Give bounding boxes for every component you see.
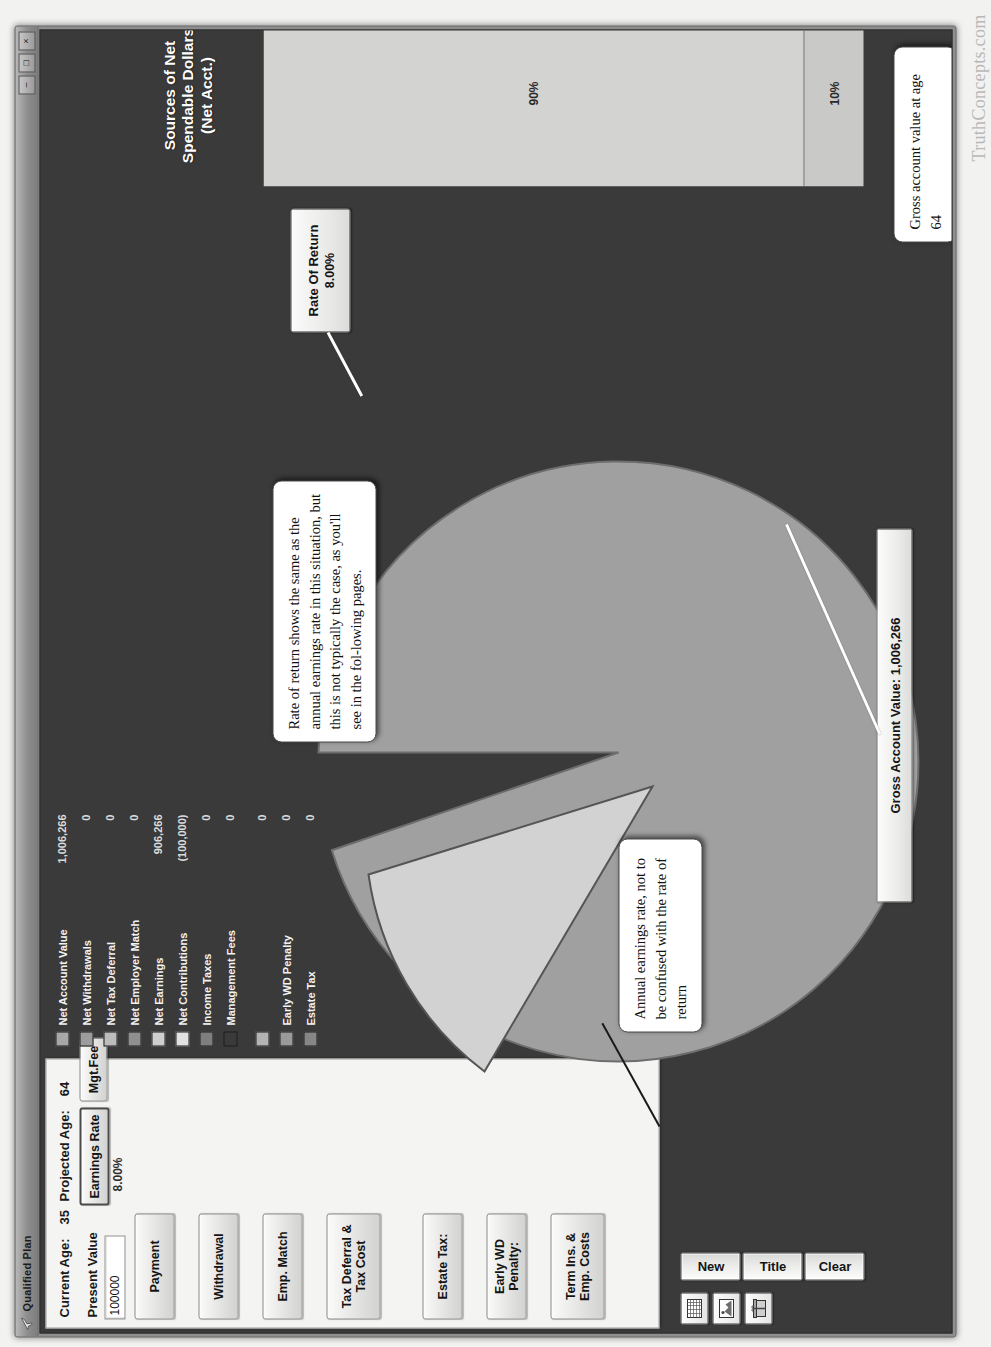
bar-chart-title-line-3: (Net Acct.)	[197, 29, 215, 190]
gross-account-value-text: Gross Account Value: 1,006,266	[887, 617, 902, 813]
legend-swatch	[199, 1031, 213, 1046]
withdrawal-button[interactable]: Withdrawal	[198, 1213, 238, 1319]
legend-label: Net Withdrawals	[80, 940, 92, 1025]
emp-match-button[interactable]: Emp. Match	[262, 1213, 302, 1319]
gross-account-value-box: Gross Account Value: 1,006,266	[876, 528, 912, 902]
legend-swatch	[151, 1031, 165, 1046]
legend-label: Management Fees	[224, 930, 236, 1025]
window-controls: – □ ×	[18, 26, 35, 94]
legend-value: 0	[127, 814, 139, 894]
window-titlebar: Qualified Plan – □ ×	[15, 26, 38, 1336]
window-client-area: Current Age: 35 Projected Age: 64 Presen…	[39, 29, 952, 1333]
table-grid-icon[interactable]	[680, 1292, 708, 1324]
legend-value: 0	[255, 814, 267, 894]
earnings-rate-value: 8.00%	[110, 1157, 124, 1191]
early-wd-penalty-button[interactable]: Early WD Penalty:	[486, 1213, 526, 1319]
rate-of-return-callout: Rate of return shows the same as the ann…	[272, 480, 376, 742]
legend-value: 0	[103, 814, 115, 894]
legend-row: Net Account Value	[55, 929, 68, 1046]
bar-chart-title-line-1: Sources of Net	[160, 29, 178, 190]
projected-age-label: Projected Age:	[56, 1110, 71, 1201]
legend-swatch	[223, 1031, 237, 1046]
legend-label: Net Employer Match	[128, 919, 140, 1025]
legend-row	[255, 1025, 268, 1046]
close-button[interactable]: ×	[18, 31, 35, 50]
legend-value: (100,000)	[175, 814, 187, 894]
rotated-content: Qualified Plan – □ × Current Age: 35 Pro…	[0, 0, 991, 1347]
legend-value: 1,006,266	[55, 814, 67, 894]
current-age-label: Current Age:	[56, 1238, 71, 1317]
tax-deferral-tax-cost-button[interactable]: Tax Deferral & Tax Cost	[326, 1213, 380, 1319]
estate-tax-button[interactable]: Estate Tax:	[422, 1213, 462, 1319]
title-button[interactable]: Title	[742, 1252, 802, 1280]
present-value-input[interactable]: 100000	[104, 1235, 125, 1319]
legend-swatch	[175, 1031, 189, 1046]
rate-of-return-label: Rate Of Return	[305, 224, 320, 316]
bar-label-net-contributions: 10%	[827, 81, 841, 105]
legend-swatch	[279, 1031, 293, 1046]
legend-row: Net Withdrawals	[79, 940, 92, 1046]
window-title: Qualified Plan	[20, 1235, 32, 1311]
projected-age-row: Projected Age: 64	[56, 1081, 71, 1201]
legend-row: Management Fees	[223, 930, 236, 1046]
legend-label: Net Contributions	[176, 932, 188, 1025]
rate-of-return-value: 8.00%	[322, 252, 336, 287]
airplane-icon	[19, 1316, 33, 1330]
new-button[interactable]: New	[680, 1252, 740, 1280]
new-button-label: New	[697, 1258, 724, 1273]
legend-swatch	[127, 1031, 141, 1046]
clear-button-label: Clear	[818, 1259, 851, 1274]
legend-value: 0	[79, 814, 91, 894]
legend-label: Net Tax Deferral	[104, 941, 116, 1025]
legend-value: 0	[279, 814, 291, 894]
legend-value: 906,266	[151, 814, 163, 894]
legend-swatch	[103, 1031, 117, 1046]
legend-value: 0	[223, 814, 235, 894]
legend-label: Early WD Penalty	[280, 935, 292, 1025]
footer-watermark: TruthConcepts.com	[968, 14, 989, 161]
legend-label: Income Taxes	[200, 953, 212, 1025]
title-button-label: Title	[759, 1259, 786, 1274]
current-age-value: 35	[56, 1210, 71, 1224]
legend-label: Net Account Value	[56, 929, 68, 1025]
legend-swatch	[255, 1031, 269, 1046]
term-ins-emp-costs-button[interactable]: Term Ins. & Emp. Costs	[550, 1213, 604, 1319]
minimize-button[interactable]: –	[18, 75, 35, 94]
payment-button[interactable]: Payment	[134, 1213, 174, 1319]
picture-icon[interactable]	[712, 1292, 740, 1324]
bar-chart-title-line-2: Spendable Dollars	[178, 29, 196, 190]
mgt-fee-button[interactable]: Mgt.Fee	[79, 1037, 107, 1101]
rate-of-return-leader-line	[326, 331, 362, 396]
inputs-panel: Current Age: 35 Projected Age: 64 Presen…	[45, 1058, 659, 1328]
bar-segment-net-contributions: 10%	[804, 29, 864, 186]
gift-package-icon[interactable]	[744, 1292, 772, 1324]
clear-button[interactable]: Clear	[804, 1252, 864, 1280]
legend-row: Net Contributions	[175, 932, 188, 1046]
legend-label: Net Earnings	[152, 957, 164, 1025]
legend-swatch	[55, 1031, 69, 1046]
present-value-label: Present Value	[84, 1232, 99, 1317]
projected-age-value: 64	[56, 1081, 71, 1095]
earnings-rate-button[interactable]: Earnings Rate	[79, 1107, 109, 1205]
bar-chart-title: Sources of Net Spendable Dollars (Net Ac…	[160, 29, 215, 190]
application-window: Qualified Plan – □ × Current Age: 35 Pro…	[14, 25, 956, 1337]
maximize-button[interactable]: □	[18, 53, 35, 72]
bar-segment-net-earnings: 90%	[263, 29, 804, 186]
screenshot-page: Qualified Plan – □ × Current Age: 35 Pro…	[0, 0, 991, 1347]
legend-swatch	[79, 1031, 93, 1046]
legend-row: Early WD Penalty	[279, 935, 292, 1046]
bar-label-net-earnings: 90%	[526, 81, 540, 105]
legend-row: Net Earnings	[151, 957, 164, 1046]
legend-value: 0	[199, 814, 211, 894]
stacked-bar-chart: 90% 10%	[262, 29, 864, 187]
legend-row: Net Tax Deferral	[103, 941, 116, 1046]
legend-row: Net Employer Match	[127, 919, 140, 1046]
legend-row: Income Taxes	[199, 953, 212, 1046]
earnings-rate-callout: Annual earnings rate, not to be confused…	[618, 838, 702, 1032]
current-age-row: Current Age: 35	[56, 1210, 71, 1317]
rate-of-return-box: Rate Of Return 8.00%	[290, 208, 350, 332]
gross-account-value-callout: Gross account value at age 64	[893, 46, 952, 242]
